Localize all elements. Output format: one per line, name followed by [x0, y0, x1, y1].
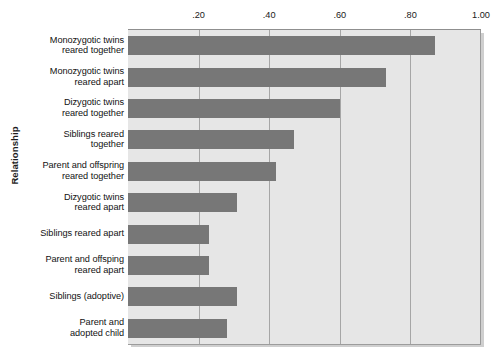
category-label-line: reared apart	[18, 265, 124, 276]
x-tick-label: 1.00	[472, 10, 490, 20]
category-label-line: Siblings reared	[63, 129, 124, 139]
bar	[128, 162, 276, 181]
correlation-bar-chart: Relationship Monozygotic twinsreared tog…	[0, 0, 502, 353]
category-label: Monozygotic twinsreared together	[18, 35, 124, 56]
category-label-line: reared together	[18, 108, 124, 119]
category-label-line: Parent and	[80, 317, 124, 327]
bar	[128, 68, 386, 87]
category-label-line: Parent and offsping	[45, 254, 124, 264]
x-tick-label: .20	[192, 10, 205, 20]
category-label: Parent and offspingreared apart	[18, 254, 124, 275]
category-label-line: adopted child	[18, 328, 124, 339]
bar	[128, 225, 209, 244]
category-label-line: reared together	[18, 45, 124, 56]
category-label-line: reared apart	[18, 202, 124, 213]
bar	[128, 256, 209, 275]
x-tick-label: .40	[263, 10, 276, 20]
bar	[128, 99, 340, 118]
category-label-column: Monozygotic twinsreared togetherMonozygo…	[18, 30, 124, 344]
plot-area	[128, 30, 481, 344]
category-label-line: together	[18, 139, 124, 150]
category-label-line: Monozygotic twins	[50, 66, 124, 76]
category-label-line: reared together	[18, 171, 124, 182]
bar	[128, 319, 227, 338]
category-label-line: Siblings reared apart	[40, 228, 124, 238]
gridline-p80	[410, 30, 411, 344]
x-tick-label: .80	[404, 10, 417, 20]
category-label: Parent andadopted child	[18, 317, 124, 338]
bar	[128, 130, 294, 149]
category-label: Dizygotic twinsreared apart	[18, 192, 124, 213]
category-label-line: Siblings (adoptive)	[49, 291, 124, 301]
category-label-line: reared apart	[18, 77, 124, 88]
bar	[128, 193, 237, 212]
x-tick-label: .60	[333, 10, 346, 20]
category-label: Dizygotic twinsreared together	[18, 97, 124, 118]
category-label: Siblings reared apart	[18, 228, 124, 239]
category-label: Siblings (adoptive)	[18, 291, 124, 302]
x-axis-tick-labels: .20.40.60.801.00	[128, 10, 481, 28]
bar	[128, 287, 237, 306]
category-label-line: Dizygotic twins	[64, 97, 124, 107]
category-label: Monozygotic twinsreared apart	[18, 66, 124, 87]
category-label-line: Dizygotic twins	[64, 192, 124, 202]
category-label-line: Parent and offspring	[42, 160, 124, 170]
plot-top-border	[128, 29, 481, 30]
category-label: Parent and offspringreared together	[18, 160, 124, 181]
bar	[128, 36, 435, 55]
plot-bottom-border	[128, 344, 481, 345]
category-label-line: Monozygotic twins	[50, 35, 124, 45]
category-label: Siblings rearedtogether	[18, 129, 124, 150]
